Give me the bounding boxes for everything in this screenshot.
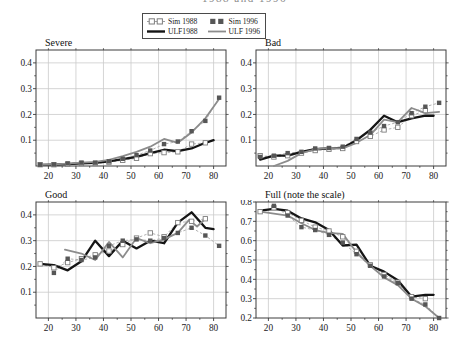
svg-text:0.8: 0.8	[240, 200, 252, 207]
chart-canvas-full: 203040506070800.20.30.40.50.60.70.8	[230, 200, 454, 336]
legend-label: Sim 1996	[229, 17, 258, 26]
svg-text:50: 50	[346, 171, 356, 181]
svg-text:30: 30	[291, 171, 301, 181]
chart-good: 203040506070800.10.20.30.4	[10, 200, 234, 336]
svg-text:60: 60	[154, 323, 164, 333]
svg-text:0.4: 0.4	[20, 58, 32, 68]
svg-text:20: 20	[264, 323, 274, 333]
chart-title-bad: Bad	[265, 37, 281, 48]
svg-text:20: 20	[44, 171, 54, 181]
svg-text:0.3: 0.3	[20, 84, 32, 94]
svg-text:40: 40	[319, 323, 329, 333]
svg-text:0.2: 0.2	[240, 110, 252, 120]
figure-root: 1988 and 1996 Sim 1988 Sim 1996 ULF1988	[0, 0, 458, 353]
chart-bad: 203040506070800.10.20.30.4	[230, 48, 454, 184]
chart-full: 203040506070800.20.30.40.50.60.70.8	[230, 200, 454, 336]
svg-text:0.5: 0.5	[240, 255, 252, 265]
legend-label: Sim 1988	[168, 17, 197, 26]
svg-text:70: 70	[401, 323, 411, 333]
legend-entry-sim-1988: Sim 1988	[147, 16, 198, 26]
legend-label: ULF 1996	[229, 27, 260, 36]
svg-text:20: 20	[264, 171, 274, 181]
chart-severe: 203040506070800.10.20.30.4	[10, 48, 234, 184]
svg-text:0.7: 0.7	[240, 217, 252, 227]
svg-text:80: 80	[209, 323, 219, 333]
svg-text:30: 30	[71, 171, 81, 181]
series-ulf-1996	[260, 212, 439, 318]
svg-text:30: 30	[71, 323, 81, 333]
legend-entry-ulf-1996: ULF 1996	[208, 26, 260, 36]
svg-text:40: 40	[99, 171, 109, 181]
markers-sim-1988	[38, 217, 208, 270]
svg-text:0.3: 0.3	[240, 294, 252, 304]
legend-box: Sim 1988 Sim 1996 ULF1988 ULF 1996	[142, 13, 266, 39]
svg-text:70: 70	[401, 171, 411, 181]
legend-entry-ulf-1988: ULF1988	[147, 26, 198, 36]
markers-sim-1996	[52, 226, 222, 276]
svg-text:70: 70	[181, 171, 191, 181]
chart-title-severe: Severe	[45, 37, 72, 48]
svg-text:0.3: 0.3	[240, 84, 252, 94]
svg-text:0.4: 0.4	[240, 58, 252, 68]
chart-title-full: Full (note the scale)	[265, 189, 345, 200]
svg-text:80: 80	[429, 171, 439, 181]
svg-text:40: 40	[319, 171, 329, 181]
chart-canvas-bad: 203040506070800.10.20.30.4	[230, 48, 454, 184]
svg-text:50: 50	[126, 323, 136, 333]
svg-text:40: 40	[99, 323, 109, 333]
svg-text:0.1: 0.1	[20, 135, 32, 145]
svg-text:70: 70	[181, 323, 191, 333]
gray-line-icon	[208, 27, 226, 36]
svg-text:80: 80	[209, 171, 219, 181]
svg-text:0.1: 0.1	[240, 135, 252, 145]
chart-canvas-severe: 203040506070800.10.20.30.4	[10, 48, 234, 184]
chart-canvas-good: 203040506070800.10.20.30.4	[10, 200, 234, 336]
open-square-dashed-marker-icon	[147, 17, 165, 26]
svg-text:80: 80	[429, 323, 439, 333]
legend-label: ULF1988	[168, 27, 198, 36]
svg-text:20: 20	[44, 323, 54, 333]
thick-black-line-icon	[147, 27, 165, 36]
svg-text:0.2: 0.2	[240, 313, 252, 323]
cropped-title: 1988 and 1996	[202, 0, 322, 5]
svg-text:0.3: 0.3	[20, 236, 32, 246]
svg-text:60: 60	[374, 171, 384, 181]
svg-text:50: 50	[346, 323, 356, 333]
svg-text:0.4: 0.4	[20, 210, 32, 220]
svg-text:30: 30	[291, 323, 301, 333]
svg-text:0.2: 0.2	[20, 110, 32, 120]
legend-entry-sim-1996: Sim 1996	[208, 16, 260, 26]
series-ulf1988	[260, 209, 433, 297]
markers-sim-1988	[258, 108, 428, 159]
filled-square-marker-icon	[208, 17, 226, 26]
svg-text:0.1: 0.1	[20, 287, 32, 297]
svg-text:0.6: 0.6	[240, 236, 252, 246]
svg-text:0.2: 0.2	[20, 262, 32, 272]
markers-sim-1988	[38, 141, 208, 167]
svg-text:0.4: 0.4	[240, 275, 252, 285]
svg-text:50: 50	[126, 171, 136, 181]
svg-text:60: 60	[154, 171, 164, 181]
cropped-title-text: 1988 and 1996	[202, 0, 322, 4]
svg-text:60: 60	[374, 323, 384, 333]
chart-title-good: Good	[45, 189, 67, 200]
